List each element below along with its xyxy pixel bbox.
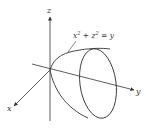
y-axis (32, 64, 134, 90)
paraboloid-opening-ellipse (75, 46, 120, 120)
surface-equation-label: x2 + z2 = y (73, 30, 115, 40)
equation-plus-z: + z (80, 31, 95, 40)
paraboloid-diagram: z y x x2 + z2 = y (0, 0, 146, 130)
x-axis (14, 70, 50, 106)
diagram-canvas: z y x x2 + z2 = y (0, 0, 146, 130)
x-axis-label: x (7, 104, 12, 113)
equation-rhs: = y (99, 31, 115, 40)
y-axis-label: y (135, 87, 141, 96)
equation-leader-line (68, 41, 76, 52)
z-axis-label: z (46, 6, 52, 15)
